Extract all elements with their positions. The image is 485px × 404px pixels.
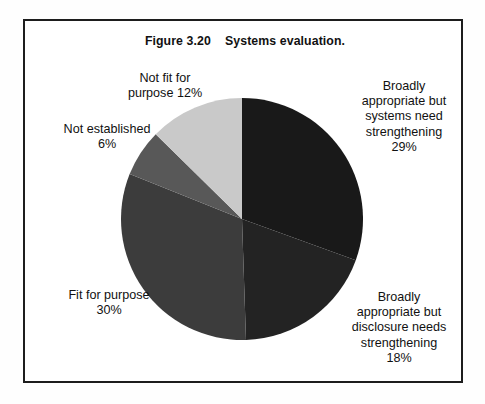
pie-label-broadly-appropriate-disclosure: Broadly appropriate but disclosure needs…	[335, 290, 463, 366]
pie-label-fit-for-purpose: Fit for purpose 30%	[31, 288, 187, 318]
scanned-page-background: Figure 3.20 Systems evaluation. Not fit …	[0, 0, 485, 404]
pie-label-not-fit-for-purpose: Not fit for purpose 12%	[95, 71, 235, 101]
figure-title: Figure 3.20 Systems evaluation.	[25, 34, 465, 48]
pie-label-not-established: Not established 6%	[31, 122, 183, 152]
pie-label-broadly-appropriate-systems: Broadly appropriate but systems need str…	[343, 79, 465, 155]
figure-frame: Figure 3.20 Systems evaluation. Not fit …	[23, 19, 463, 383]
